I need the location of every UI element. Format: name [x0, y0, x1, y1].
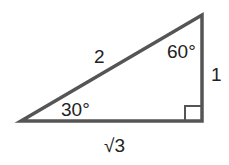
top-angle-label: 60°: [167, 42, 196, 61]
left-angle-label: 30°: [61, 100, 90, 119]
hypotenuse-label: 2: [94, 47, 105, 66]
right-angle-marker: [185, 106, 202, 121]
short-leg-label: 1: [211, 65, 222, 84]
triangle: [21, 15, 202, 121]
long-leg-label: √3: [104, 136, 125, 155]
